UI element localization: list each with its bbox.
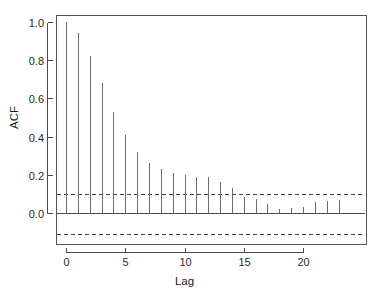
y-tick-label-0.2: 0.2 [29,170,44,182]
acf-plot-figure: 0.00.20.40.60.81.0 05101520 ACF Lag [0,0,375,296]
y-axis-title: ACF [8,106,20,129]
y-tick-label-0.6: 0.6 [29,93,44,105]
x-tick-label-10: 10 [179,256,191,268]
x-tick-label-5: 5 [122,256,128,268]
x-tick-label-15: 15 [238,256,250,268]
acf-plot-canvas: 0.00.20.40.60.81.0 05101520 ACF Lag [0,0,375,296]
x-tick-label-0: 0 [63,256,69,268]
x-axis-title: Lag [175,275,194,287]
y-tick-label-1.0: 1.0 [29,17,44,29]
y-tick-label-0.8: 0.8 [29,55,44,67]
y-tick-label-0.4: 0.4 [29,132,44,144]
x-tick-label-20: 20 [297,256,309,268]
y-tick-label-0.0: 0.0 [29,208,44,220]
